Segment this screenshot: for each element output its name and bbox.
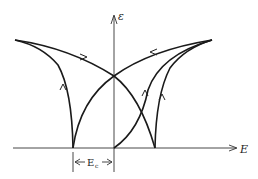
right-rising-branch [155,40,212,148]
coercive-field-marker: E c [73,152,112,172]
origin-rising-branch [114,40,212,148]
x-axis-label: E [239,143,248,156]
left-rising-branch [15,40,73,148]
x-axis [13,145,237,151]
coercive-field-subscript: c [95,162,99,169]
coercive-field-label: E [87,157,94,168]
y-axis-label: ε [118,10,124,23]
butterfly-diagram: ε E E c [0,0,258,179]
arrow-icon [150,49,157,55]
